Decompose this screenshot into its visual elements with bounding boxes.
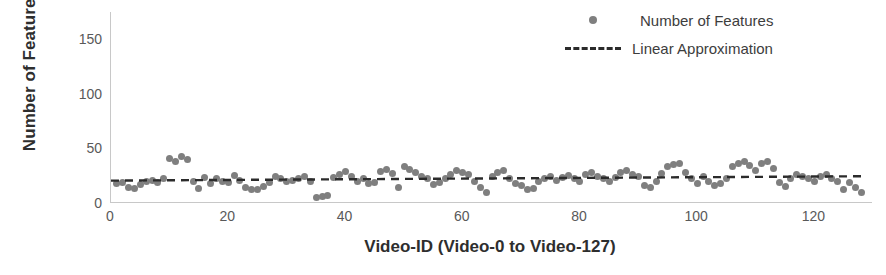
legend-marker-icon bbox=[560, 16, 626, 24]
legend-label-linear-approximation: Linear Approximation bbox=[626, 40, 773, 57]
x-axis-tick-label: 120 bbox=[783, 208, 843, 224]
x-axis-tick-label: 40 bbox=[314, 208, 374, 224]
scatter-chart: Number of Features 050100150 02040608010… bbox=[0, 0, 886, 275]
x-axis-tick-label: 0 bbox=[80, 208, 140, 224]
legend-label-number-of-features: Number of Features bbox=[626, 12, 773, 29]
legend-dashed-line-icon bbox=[560, 47, 626, 50]
legend-item-linear-approximation: Linear Approximation bbox=[560, 34, 880, 62]
y-axis-tick-label: 50 bbox=[62, 141, 102, 155]
y-axis-title: Number of Features bbox=[20, 0, 40, 170]
x-axis-title: Video-ID (Video-0 to Video-127) bbox=[110, 237, 870, 257]
x-axis-tick-label: 80 bbox=[549, 208, 609, 224]
chart-legend: Number of Features Linear Approximation bbox=[560, 6, 880, 62]
x-axis-tick-label: 100 bbox=[666, 208, 726, 224]
y-axis-tick-label: 150 bbox=[62, 32, 102, 46]
y-axis-tick-label: 100 bbox=[62, 87, 102, 101]
x-axis-tick-label: 60 bbox=[432, 208, 492, 224]
x-axis-tick-label: 20 bbox=[197, 208, 257, 224]
legend-item-number-of-features: Number of Features bbox=[560, 6, 880, 34]
